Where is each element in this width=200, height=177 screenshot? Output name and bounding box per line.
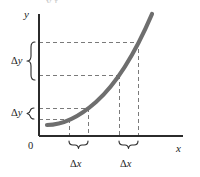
delta-variable: x xyxy=(77,158,82,169)
delta-x-right-brace xyxy=(119,141,138,149)
delta-x-left-label: Δx xyxy=(70,159,81,170)
delta-symbol: Δ xyxy=(70,158,77,169)
origin-label: 0 xyxy=(28,141,33,152)
delta-x-right-label: Δx xyxy=(120,159,131,170)
exponential-growth-figure: y f y x xyxy=(0,0,200,177)
delta-y-upper-label: Δy xyxy=(11,56,22,67)
vertical-guides xyxy=(69,42,138,136)
x-axis-label: x xyxy=(176,143,181,154)
delta-variable: y xyxy=(18,55,23,66)
delta-variable: x xyxy=(127,158,132,169)
delta-symbol: Δ xyxy=(11,55,18,66)
y-axis-label: y xyxy=(24,9,29,20)
delta-symbol: Δ xyxy=(11,107,18,118)
delta-y-lower-brace xyxy=(27,108,34,119)
delta-x-left-brace xyxy=(69,141,88,149)
delta-y-lower-label: Δy xyxy=(11,108,22,119)
delta-variable: y xyxy=(18,107,23,118)
delta-symbol: Δ xyxy=(120,158,127,169)
delta-y-upper-brace xyxy=(27,42,35,80)
